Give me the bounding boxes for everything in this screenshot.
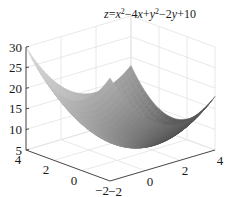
wall-grid-z xyxy=(131,57,215,88)
z-tick xyxy=(26,129,29,130)
z-tick xyxy=(26,150,29,151)
z-tick xyxy=(26,108,29,109)
x-tick-label: −2 xyxy=(108,184,122,197)
y-tick-label: 4 xyxy=(15,152,22,167)
wall-grid-z xyxy=(131,37,215,68)
z-tick-label: 30 xyxy=(9,40,22,55)
title-part: −2 xyxy=(159,7,172,21)
y-tick-label: 0 xyxy=(71,173,78,188)
title-part: +10 xyxy=(177,7,196,21)
z-tick xyxy=(26,88,29,89)
y-tick-label: −2 xyxy=(95,183,109,197)
surface-plot: 51015202530−2024−2024 z=x2−4x+y2−2y+10 xyxy=(0,0,235,197)
x-axis-line xyxy=(110,150,215,181)
z-tick-label: 20 xyxy=(9,81,22,96)
z-tick xyxy=(26,67,29,68)
x-tick-label: 0 xyxy=(147,174,154,189)
wall-grid-z xyxy=(26,37,131,68)
z-tick-label: 15 xyxy=(9,101,22,116)
title-part: −4 xyxy=(125,7,138,21)
y-tick-label: 2 xyxy=(43,162,50,177)
z-tick xyxy=(26,47,29,48)
x-tick-label: 2 xyxy=(182,163,189,178)
x-tick-label: 4 xyxy=(217,153,224,168)
z-tick-label: 25 xyxy=(9,60,22,75)
chart-title: z=x2−4x+y2−2y+10 xyxy=(103,7,196,22)
y-axis-line xyxy=(26,150,110,181)
z-tick-label: 10 xyxy=(9,122,22,137)
